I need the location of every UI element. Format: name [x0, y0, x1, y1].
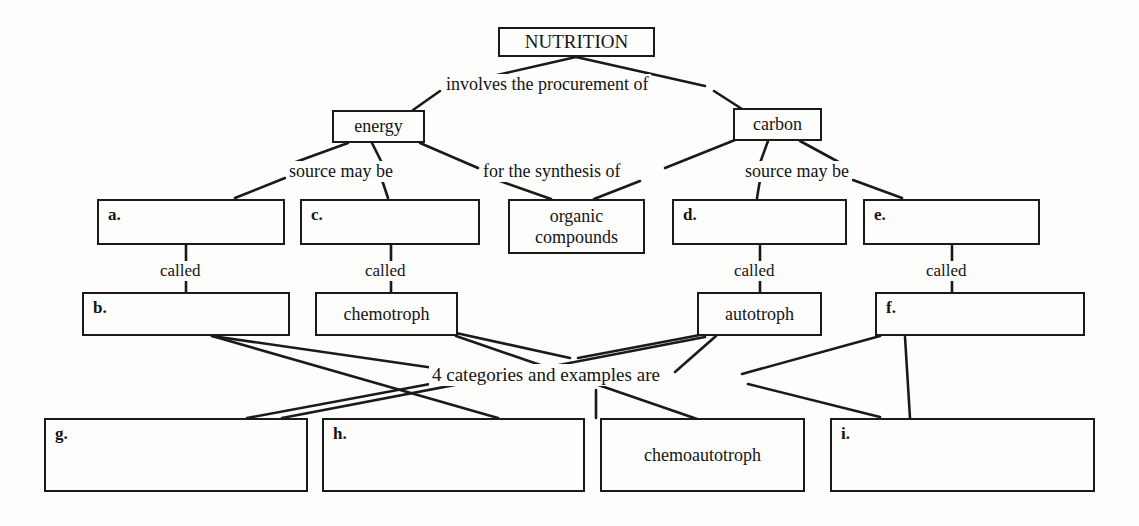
- line-f-to-four-categories: [742, 336, 880, 374]
- node-chemotroph[interactable]: chemotroph: [315, 292, 458, 336]
- node-autotroph-label: autotroph: [725, 304, 794, 324]
- node-answer-i-label: i.: [841, 424, 1093, 444]
- concept-map-canvas: NUTRITION energy carbon a. c. organic co…: [0, 0, 1139, 526]
- connector-label-for-the-synthesis-of: for the synthesis of: [480, 161, 623, 182]
- line-b-to-four-categories: [212, 336, 455, 371]
- line-energy-to-source-may-be: [293, 143, 348, 163]
- node-nutrition-label: NUTRITION: [525, 31, 628, 52]
- line-carbon-to-source-may-be: [760, 141, 768, 163]
- line-f-to-i: [905, 337, 910, 418]
- node-answer-h-label: h.: [333, 424, 583, 444]
- node-organic-compounds[interactable]: organic compounds: [508, 199, 645, 254]
- node-answer-f-label: f.: [886, 298, 1083, 318]
- node-answer-c[interactable]: c.: [300, 199, 480, 245]
- node-energy-label: energy: [354, 116, 403, 136]
- node-answer-c-label: c.: [311, 205, 478, 225]
- node-answer-b-label: b.: [93, 298, 288, 318]
- connector-label-called-d-autotroph: called: [731, 261, 778, 281]
- connector-label-called-e-f: called: [923, 261, 970, 281]
- node-answer-a[interactable]: a.: [97, 199, 285, 245]
- connector-label-four-categories: 4 categories and examples are: [429, 364, 663, 386]
- node-answer-e-label: e.: [874, 205, 1038, 225]
- line-energy-to-label-down: [372, 143, 382, 163]
- node-answer-d[interactable]: d.: [672, 199, 847, 245]
- connector-label-called-a-b: called: [157, 261, 204, 281]
- node-answer-h[interactable]: h.: [322, 418, 585, 492]
- node-energy[interactable]: energy: [332, 110, 425, 143]
- node-answer-i[interactable]: i.: [830, 418, 1095, 492]
- node-answer-f[interactable]: f.: [875, 292, 1085, 336]
- node-chemoautotroph[interactable]: chemoautotroph: [600, 418, 805, 492]
- line-energy-to-for-the-synthesis-of: [420, 143, 478, 168]
- node-answer-g[interactable]: g.: [44, 418, 308, 492]
- line-carbon-to-for-the-synthesis-of: [665, 140, 735, 168]
- node-answer-a-label: a.: [108, 205, 283, 225]
- line-four-categories-to-i: [748, 384, 880, 417]
- node-answer-d-label: d.: [683, 205, 845, 225]
- line-source-may-be-to-c: [382, 180, 388, 198]
- line-involves-to-carbon: [714, 91, 742, 109]
- line-source-carbon-to-d: [757, 180, 760, 198]
- connector-label-source-may-be-energy: source may be: [286, 161, 396, 182]
- node-organic-compounds-line2: compounds: [535, 227, 618, 247]
- node-chemotroph-label: chemotroph: [344, 304, 430, 324]
- line-autotroph-to-crossing: [578, 335, 700, 358]
- line-four-categories-to-g: [247, 384, 430, 418]
- line-involves-to-energy: [413, 91, 440, 110]
- connector-label-called-c-chemotroph: called: [362, 261, 409, 281]
- node-carbon[interactable]: carbon: [733, 108, 822, 141]
- node-carbon-label: carbon: [753, 114, 802, 134]
- line-synthesis-to-organic-right: [594, 181, 640, 199]
- connector-label-source-may-be-carbon: source may be: [742, 161, 852, 182]
- node-answer-g-label: g.: [55, 424, 306, 444]
- node-organic-compounds-line1: organic: [550, 206, 604, 226]
- node-chemoautotroph-label: chemoautotroph: [644, 445, 761, 465]
- line-source-may-be-to-a: [235, 178, 285, 198]
- node-answer-b[interactable]: b.: [82, 292, 290, 336]
- node-nutrition[interactable]: NUTRITION: [498, 27, 655, 57]
- line-source-carbon-to-e: [853, 180, 902, 198]
- node-autotroph[interactable]: autotroph: [697, 292, 822, 336]
- node-answer-e[interactable]: e.: [863, 199, 1040, 245]
- line-synthesis-to-organic-left: [500, 181, 551, 199]
- connector-label-involves: involves the procurement of: [443, 74, 651, 95]
